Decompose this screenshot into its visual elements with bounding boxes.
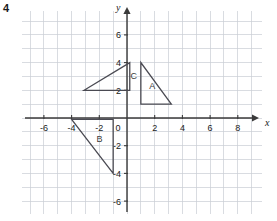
y-axis-name: y [115,2,121,13]
triangle-label-a: A [149,81,155,91]
y-axis-arrow [123,7,130,14]
x-tick-label: 6 [208,123,213,133]
x-tick-label: 8 [235,123,240,133]
x-tick-label: 4 [180,123,185,133]
x-tick-label: -6 [40,123,48,133]
y-tick-label: -2 [113,141,121,151]
origin-label: 0 [115,123,120,133]
y-tick-label: 4 [116,58,121,68]
triangle-a [141,63,171,105]
y-tick-label: 6 [116,30,121,40]
x-tick-label: -2 [95,123,103,133]
x-axis-name: x [264,117,270,128]
triangle-b [72,119,114,173]
y-tick-label: -6 [113,197,121,207]
worksheet-figure: 4 -6-4-22468642-2-4-60 ABC xy [0,0,277,221]
triangle-label-b: B [97,134,103,144]
x-axis-arrow [252,114,259,121]
y-tick-label: -4 [113,169,121,179]
triangle-label-c: C [130,71,137,81]
x-tick-label: 2 [152,123,157,133]
coordinate-plane: -6-4-22468642-2-4-60 ABC xy [0,0,277,221]
grid-lines [22,11,262,214]
x-tick-label: -4 [68,123,76,133]
